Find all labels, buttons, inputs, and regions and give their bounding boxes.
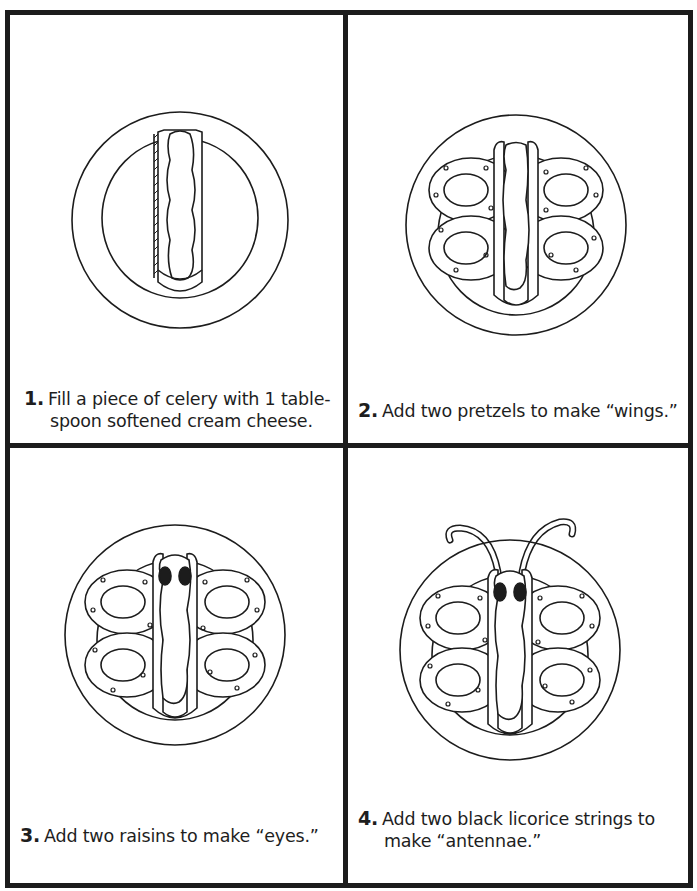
step-text: Add two raisins to make “eyes.” xyxy=(44,826,319,846)
step-text: Add two black licorice strings to xyxy=(382,809,655,829)
pretzel-wings-illustration xyxy=(396,110,636,340)
step-2-caption: 2.Add two pretzels to make “wings.” xyxy=(358,399,678,422)
step-text-continued: make “antennae.” xyxy=(358,830,678,852)
step-number: 4. xyxy=(358,807,378,829)
step-4-panel: 4.Add two black licorice strings to make… xyxy=(348,448,688,883)
licorice-antennae-illustration xyxy=(390,490,640,780)
raisin-eyes-illustration xyxy=(55,520,295,750)
step-number: 2. xyxy=(358,399,378,421)
step-number: 3. xyxy=(20,824,40,846)
step-4-caption: 4.Add two black licorice strings to make… xyxy=(358,807,678,852)
step-1-panel: 1.Fill a piece of celery with 1 table- s… xyxy=(10,15,343,443)
step-text-continued: spoon softened cream cheese. xyxy=(24,410,334,432)
step-number: 1. xyxy=(24,387,44,409)
step-2-panel: 2.Add two pretzels to make “wings.” xyxy=(348,15,688,443)
step-1-caption: 1.Fill a piece of celery with 1 table- s… xyxy=(24,387,334,432)
step-3-caption: 3.Add two raisins to make “eyes.” xyxy=(20,824,340,847)
step-text: Fill a piece of celery with 1 table- xyxy=(48,389,330,409)
step-3-panel: 3.Add two raisins to make “eyes.” xyxy=(10,448,343,883)
step-text: Add two pretzels to make “wings.” xyxy=(382,401,678,421)
celery-plate-illustration xyxy=(70,110,290,330)
